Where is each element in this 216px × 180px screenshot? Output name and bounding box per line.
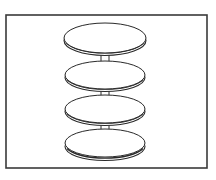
tier-4 [65,129,145,161]
tier-2 [65,61,145,92]
illustration-canvas: four-tier round stacking stand line draw… [0,0,216,180]
tier-1 [64,23,146,56]
tiered-stand-drawing [0,0,216,180]
stand-tiers [64,23,146,161]
tier-3 [65,95,145,126]
